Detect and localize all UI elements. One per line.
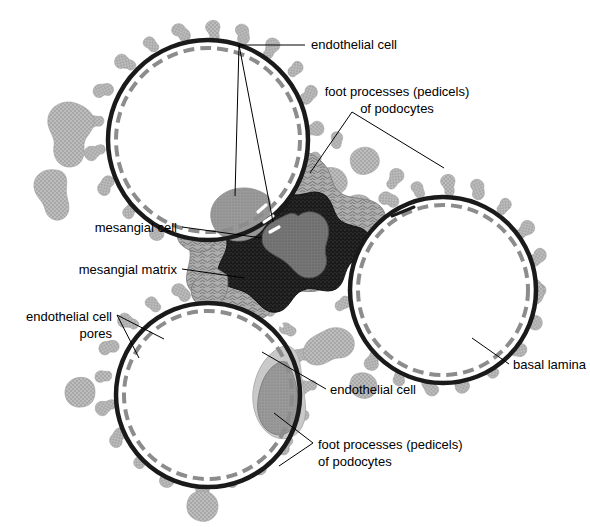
glomerulus-diagram-svg: endothelial cell foot processes (pedicel… <box>0 0 590 527</box>
label-endothelial-cell-pores-line1: endothelial cell <box>26 309 112 324</box>
label-endothelial-cell-bottom: endothelial cell <box>330 382 416 397</box>
label-mesangial-cell: mesangial cell <box>95 220 177 235</box>
label-basal-lamina: basal lamina <box>513 357 587 372</box>
label-mesangial-matrix: mesangial matrix <box>79 262 178 277</box>
capillary-top <box>108 40 308 241</box>
label-endothelial-cell-top: endothelial cell <box>311 37 397 52</box>
label-endothelial-cell-pores-line2: pores <box>79 326 112 341</box>
label-foot-processes-bottom-line1: foot processes (pedicels) <box>318 437 463 452</box>
label-foot-processes-bottom-line2: of podocytes <box>318 454 392 469</box>
label-foot-processes-top-line2: of podocytes <box>360 101 434 116</box>
capillary-right <box>350 197 536 383</box>
diagram-figure: endothelial cell foot processes (pedicel… <box>0 0 590 527</box>
label-foot-processes-top-line1: foot processes (pedicels) <box>325 84 470 99</box>
